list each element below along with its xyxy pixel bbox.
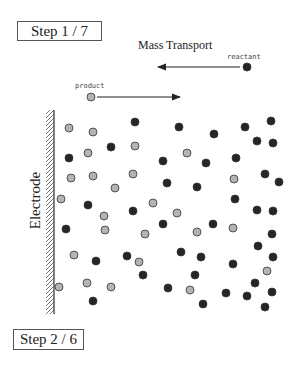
product-particle: [65, 124, 73, 132]
reactant-legend-dot: [243, 63, 251, 71]
reactant-particle: [253, 137, 261, 145]
mass-transport-diagram: [0, 0, 296, 368]
product-particle: [67, 174, 75, 182]
reactant-particle: [123, 252, 131, 260]
reactant-particle: [229, 260, 237, 268]
reactant-particle: [193, 183, 201, 191]
reactant-particle: [261, 303, 269, 311]
product-particle: [173, 209, 181, 217]
product-particle: [70, 251, 78, 259]
reactant-particle: [222, 289, 230, 297]
reactant-particle: [107, 143, 115, 151]
reactant-particle: [159, 157, 167, 165]
product-legend-dot: [87, 93, 95, 101]
product-particle: [131, 142, 139, 150]
reactant-particle: [268, 288, 276, 296]
product-particle: [83, 279, 91, 287]
reactant-particle: [269, 139, 277, 147]
product-particle: [89, 128, 97, 136]
reactant-particle: [84, 201, 92, 209]
product-particle: [111, 184, 119, 192]
particles: [55, 117, 283, 311]
electrode: [46, 110, 54, 314]
reactant-particle: [268, 230, 276, 238]
product-particle: [55, 283, 63, 291]
reactant-particle: [62, 225, 70, 233]
reactant-particle: [202, 159, 210, 167]
reactant-particle: [129, 207, 137, 215]
product-particle: [193, 228, 201, 236]
reactant-particle: [191, 271, 199, 279]
product-particle: [84, 149, 92, 157]
product-particle: [89, 172, 97, 180]
product-particle: [101, 226, 109, 234]
reactant-particle: [89, 297, 97, 305]
reactant-particle: [159, 220, 167, 228]
reactant-particle: [241, 123, 249, 131]
product-particle: [183, 149, 191, 157]
reactant-particle: [177, 248, 185, 256]
product-particle: [229, 224, 237, 232]
reactant-particle: [261, 170, 269, 178]
product-particle: [135, 258, 143, 266]
reactant-particle: [139, 271, 147, 279]
reactant-particle: [92, 257, 100, 265]
reactant-particle: [251, 279, 259, 287]
reactant-particle: [269, 207, 277, 215]
reactant-particle: [164, 284, 172, 292]
product-particle: [230, 175, 238, 183]
reactant-particle: [199, 300, 207, 308]
product-particle: [186, 286, 194, 294]
reactant-particle: [175, 123, 183, 131]
reactant-particle: [275, 178, 283, 186]
reactant-arrow: [158, 63, 251, 71]
reactant-particle: [269, 253, 277, 261]
reactant-particle: [243, 292, 251, 300]
reactant-particle: [254, 242, 262, 250]
reactant-particle: [65, 154, 73, 162]
product-arrow: [87, 93, 180, 101]
reactant-particle: [253, 206, 261, 214]
reactant-particle: [197, 253, 205, 261]
product-particle: [100, 212, 108, 220]
product-particle: [263, 267, 271, 275]
step-indicator-bottom: Step 2 / 6: [13, 329, 84, 350]
reactant-particle: [231, 195, 239, 203]
product-particle: [57, 195, 65, 203]
reactant-particle: [131, 118, 139, 126]
reactant-particle: [210, 130, 218, 138]
product-particle: [129, 170, 137, 178]
reactant-particle: [267, 117, 275, 125]
reactant-particle: [232, 154, 240, 162]
product-particle: [141, 230, 149, 238]
reactant-particle: [209, 220, 217, 228]
product-particle: [149, 199, 157, 207]
product-particle: [107, 283, 115, 291]
reactant-particle: [163, 179, 171, 187]
